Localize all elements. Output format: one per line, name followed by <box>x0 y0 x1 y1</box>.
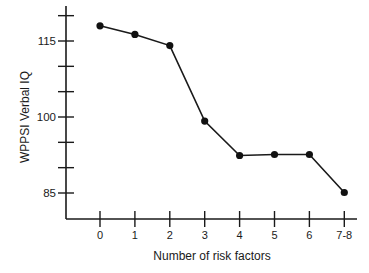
data-point-marker <box>166 42 173 49</box>
data-point-marker <box>96 22 103 29</box>
x-axis: 01234567-8 <box>66 211 357 241</box>
data-point-marker <box>271 151 278 158</box>
data-point-marker <box>341 189 348 196</box>
series-line <box>100 26 344 193</box>
data-point-marker <box>306 151 313 158</box>
x-tick-label: 7-8 <box>336 229 352 241</box>
y-tick-label: 100 <box>37 111 56 123</box>
x-tick-label: 0 <box>97 229 103 241</box>
line-chart: 85100115 01234567-8 Number of risk facto… <box>0 0 369 273</box>
y-axis-label: WPPSI Verbal IQ <box>18 71 32 163</box>
x-tick-label: 6 <box>306 229 312 241</box>
data-point-marker <box>201 117 208 124</box>
x-tick-label: 5 <box>271 229 277 241</box>
x-tick-label: 1 <box>132 229 138 241</box>
x-axis-label: Number of risk factors <box>153 249 270 263</box>
data-series <box>96 22 348 196</box>
y-tick-label: 115 <box>38 35 56 47</box>
x-tick-label: 4 <box>237 229 243 241</box>
y-tick-label: 85 <box>43 187 56 199</box>
data-point-marker <box>131 31 138 38</box>
y-axis: 85100115 <box>37 6 74 219</box>
x-tick-label: 3 <box>202 229 208 241</box>
data-point-marker <box>236 152 243 159</box>
x-tick-label: 2 <box>167 229 173 241</box>
